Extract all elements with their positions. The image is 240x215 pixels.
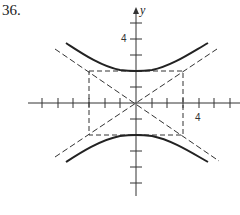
- axes: [28, 7, 240, 196]
- asymptotes: [55, 49, 219, 161]
- y-axis-label: y: [139, 3, 146, 17]
- x-tick-label-4: 4: [195, 112, 201, 123]
- y-tick-label-4: 4: [121, 33, 127, 44]
- hyperbola-upper-branch: [66, 43, 208, 71]
- hyperbola-graph: y 4 4: [0, 0, 240, 215]
- asymptote-negative: [55, 49, 219, 161]
- y-axis-arrow-icon: [133, 7, 139, 14]
- hyperbola-lower-branch: [66, 135, 208, 162]
